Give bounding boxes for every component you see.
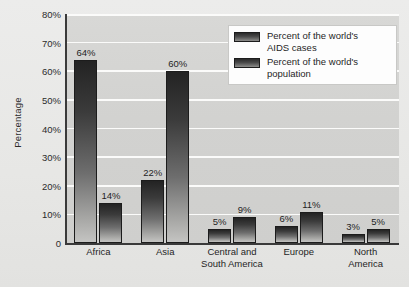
legend-label-line2: population [267,68,311,79]
y-axis-tick-label: 80% [42,9,61,20]
y-axis-tick-label: 50% [42,94,61,105]
y-axis-tick-label: 20% [42,180,61,191]
y-axis-tick-label: 10% [42,209,61,220]
bar [166,71,189,243]
gridline [65,185,399,187]
chart-legend: Percent of the world's AIDS cases Percen… [228,25,397,85]
x-axis-line [65,243,399,245]
bar-chart: Percentage 80%70%60%50%40%30%20%10%0 64%… [0,0,409,287]
bar [367,229,390,243]
bar [275,226,298,243]
legend-item-aids-cases: Percent of the world's AIDS cases [234,30,391,53]
y-axis-title: Percentage [4,0,30,244]
legend-label-aids-cases: Percent of the world's AIDS cases [267,30,358,53]
x-axis-category-label-line: Africa [86,246,110,257]
legend-label-line1: Percent of the world's [267,30,358,41]
x-axis-category-label-line: South America [187,258,277,270]
legend-label-line1: Percent of the world's [267,56,358,67]
x-axis-category-label-line: Europe [283,246,314,257]
y-axis-line [65,14,67,244]
y-axis-tick-label: 40% [42,123,61,134]
bar-value-label: 5% [355,216,401,227]
legend-item-population: Percent of the world's population [234,56,391,79]
y-axis-tick-label: 70% [42,37,61,48]
bar-value-label: 11% [288,199,334,210]
gridline [65,14,399,16]
bar [233,217,256,243]
y-axis-tick-label: 30% [42,152,61,163]
legend-swatch-icon [234,58,260,68]
legend-swatch-icon [234,32,260,42]
x-axis-category-label-line: Asia [156,246,174,257]
bar-value-label: 14% [88,190,134,201]
legend-label-population: Percent of the world's population [267,56,358,79]
x-axis-category-label: NorthAmerica [321,246,409,269]
x-axis-category-label-line: America [321,258,409,270]
bar [342,234,365,243]
bar [141,180,164,243]
bar-value-label: 60% [155,58,201,69]
gridline [65,99,399,101]
bar [300,212,323,243]
bar [208,229,231,243]
y-axis-tick-labels: 80%70%60%50%40%30%20%10%0 [28,14,64,243]
y-axis-title-text: Percentage [12,97,23,148]
bar [99,203,122,243]
legend-label-line2: AIDS cases [267,42,317,53]
bar-value-label: 9% [222,204,268,215]
y-axis-tick-label: 60% [42,66,61,77]
x-axis-category-label-line: North [354,246,377,257]
gridline [65,156,399,158]
bar [74,60,97,243]
x-axis-category-label-line: Central and [207,246,256,257]
bar-value-label: 64% [63,47,109,58]
gridline [65,128,399,130]
x-axis-category-labels: AfricaAsiaCentral andSouth AmericaEurope… [65,246,399,286]
